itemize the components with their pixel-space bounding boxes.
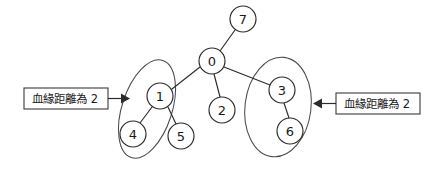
node-2-label: 2 <box>218 103 226 118</box>
node-7[interactable]: 7 <box>230 6 256 32</box>
node-6[interactable]: 6 <box>277 118 303 144</box>
node-3-label: 3 <box>278 83 286 98</box>
edge-0-2 <box>214 74 220 97</box>
group-ellipse-left <box>107 53 186 165</box>
callout-left-text: 血緣距離為 2 <box>32 92 98 106</box>
node-0-label: 0 <box>208 54 216 69</box>
node-3[interactable]: 3 <box>269 77 295 103</box>
node-1[interactable]: 1 <box>147 83 173 109</box>
callout-right-text: 血緣距離為 2 <box>344 97 410 111</box>
family-tree-diagram: 7 0 1 2 3 4 5 <box>0 0 442 170</box>
group-ellipse-right <box>239 53 317 160</box>
edge-0-1 <box>172 67 200 89</box>
node-6-label: 6 <box>286 124 294 139</box>
diagram-canvas: 7 0 1 2 3 4 5 <box>0 0 442 170</box>
node-2[interactable]: 2 <box>209 97 235 123</box>
node-7-label: 7 <box>239 12 247 27</box>
node-0[interactable]: 0 <box>199 48 225 74</box>
edge-3-6 <box>284 103 289 118</box>
node-5-label: 5 <box>177 129 185 144</box>
node-4-label: 4 <box>129 127 137 142</box>
edge-0-3 <box>224 67 270 85</box>
node-4[interactable]: 4 <box>120 121 146 147</box>
callout-right-arrow-icon <box>313 99 322 109</box>
edge-1-4 <box>140 107 152 123</box>
node-5[interactable]: 5 <box>168 123 194 149</box>
node-1-label: 1 <box>156 89 164 104</box>
nodes: 7 0 1 2 3 4 5 <box>120 6 303 149</box>
edge-0-7 <box>220 30 235 51</box>
callout-left: 血緣距離為 2 <box>24 88 130 109</box>
callout-right: 血緣距離為 2 <box>313 93 420 114</box>
